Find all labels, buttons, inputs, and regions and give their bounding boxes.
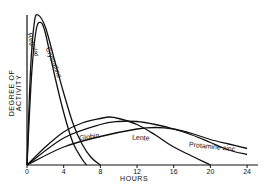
y-axis-label: DEGREE OF ACTIVITY bbox=[8, 53, 22, 133]
x-tick-label: 24 bbox=[243, 168, 251, 175]
x-tick-label: 8 bbox=[98, 168, 102, 175]
label-lente: Lente bbox=[132, 134, 150, 142]
x-tick-label: 4 bbox=[62, 168, 66, 175]
x-tick-label: 0 bbox=[25, 168, 29, 175]
x-tick-label: 16 bbox=[170, 168, 178, 175]
x-tick-label: 20 bbox=[206, 168, 214, 175]
curve-crystalline bbox=[27, 15, 100, 165]
x-tick-label: 12 bbox=[133, 168, 141, 175]
chart: DEGREE OF ACTIVITY HOURS 04812162024 Reg… bbox=[0, 0, 273, 192]
x-axis-label: HOURS bbox=[120, 175, 148, 182]
plot-area bbox=[0, 0, 273, 192]
curve-globin bbox=[27, 117, 210, 165]
